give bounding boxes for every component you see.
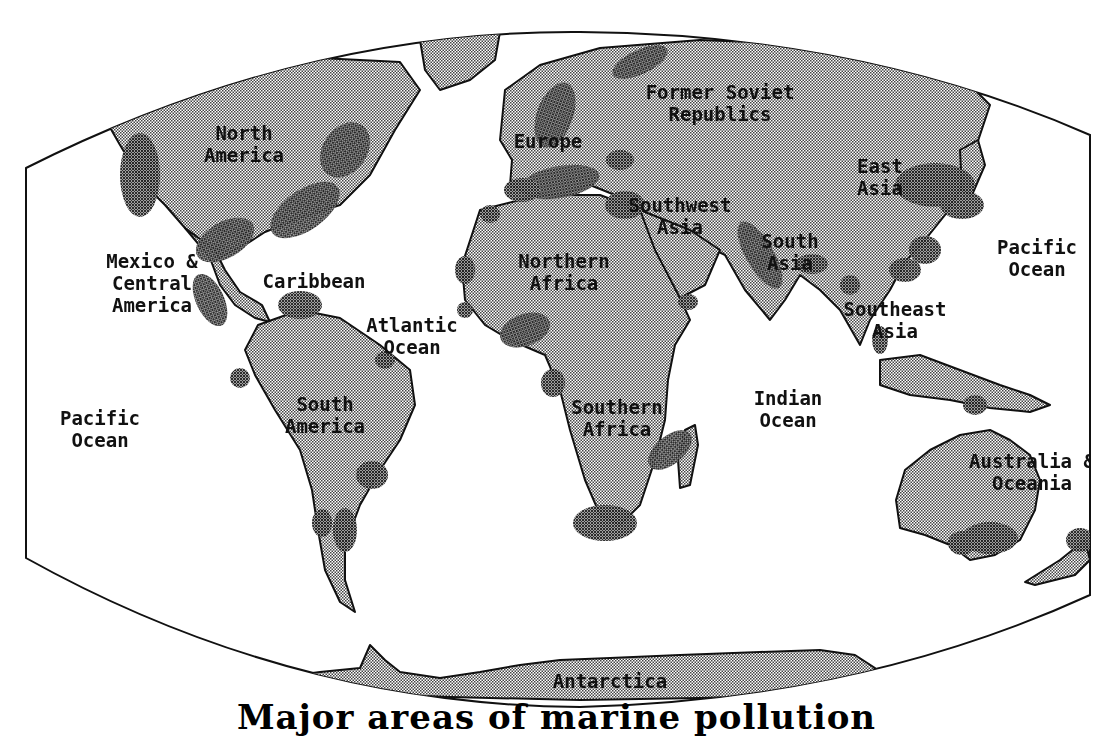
label-southern-africa: SouthernAfrica [571, 396, 663, 440]
map-caption: Major areas of marine pollution [0, 697, 1113, 737]
label-caribbean: Caribbean [263, 270, 366, 292]
label-south-america: SouthAmerica [285, 393, 365, 437]
label-europe: Europe [514, 130, 583, 152]
label-pacific-east: PacificOcean [997, 236, 1077, 280]
label-east-asia: EastAsia [857, 155, 903, 199]
label-pacific-west: PacificOcean [60, 407, 140, 451]
label-northern-africa: NorthernAfrica [518, 250, 610, 294]
label-arctic: Arctic [546, 7, 615, 29]
label-indian: IndianOcean [754, 387, 823, 431]
label-mexico-central: Mexico &CentralAmerica [106, 250, 198, 316]
label-north-america: NorthAmerica [204, 122, 284, 166]
label-antarctica: Antarctica [553, 670, 667, 692]
label-south-asia: SouthAsia [761, 230, 818, 274]
